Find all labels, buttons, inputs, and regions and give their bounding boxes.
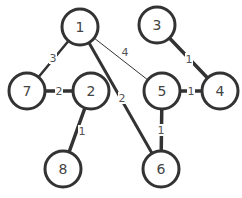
edges-layer: 34221111 xyxy=(27,25,220,169)
node-label: 5 xyxy=(158,83,167,99)
edge-weight-label: 1 xyxy=(158,124,165,137)
node-1: 1 xyxy=(62,9,98,45)
node-label: 4 xyxy=(216,83,225,99)
node-label: 3 xyxy=(153,17,162,33)
node-2: 2 xyxy=(73,73,109,109)
graph-diagram: 34221111 13725486 xyxy=(0,0,242,198)
node-5: 5 xyxy=(144,73,180,109)
node-label: 2 xyxy=(87,83,96,99)
node-label: 1 xyxy=(76,19,85,35)
node-7: 7 xyxy=(9,73,45,109)
edge-weight-label: 1 xyxy=(186,53,193,66)
node-6: 6 xyxy=(143,151,179,187)
edge-weight-label: 4 xyxy=(122,46,129,59)
node-8: 8 xyxy=(45,151,81,187)
edge-weight-label: 2 xyxy=(56,85,63,98)
edge-weight-label: 1 xyxy=(188,85,195,98)
node-label: 8 xyxy=(59,161,68,177)
edge-weight-label: 1 xyxy=(79,125,86,138)
node-4: 4 xyxy=(202,73,238,109)
edge-weight-label: 2 xyxy=(119,92,126,105)
node-label: 6 xyxy=(157,161,166,177)
node-label: 7 xyxy=(23,83,32,99)
node-3: 3 xyxy=(139,7,175,43)
edge-weight-label: 3 xyxy=(50,52,57,65)
